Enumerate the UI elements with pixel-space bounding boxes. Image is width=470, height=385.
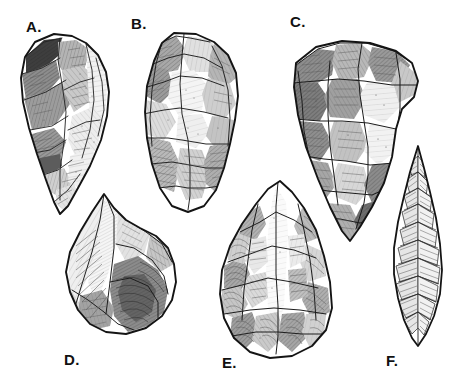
figure-d-body (52, 190, 192, 350)
figure-e-body (206, 178, 346, 363)
figure-f-body (380, 142, 460, 360)
figure-e-almond-handaxe (206, 178, 346, 363)
figure-label-b: B. (131, 16, 147, 31)
figure-label-f: F. (386, 353, 398, 368)
figure-label-e: E. (222, 355, 237, 370)
lithic-illustration-plate: A. B. C. D. E. F. (0, 0, 470, 385)
figure-label-c: C. (290, 14, 306, 29)
figure-f-lanceolate-point (380, 142, 460, 360)
figure-label-d: D. (64, 352, 80, 367)
figure-label-a: A. (26, 19, 42, 34)
figure-d-levallois-core (52, 190, 192, 350)
